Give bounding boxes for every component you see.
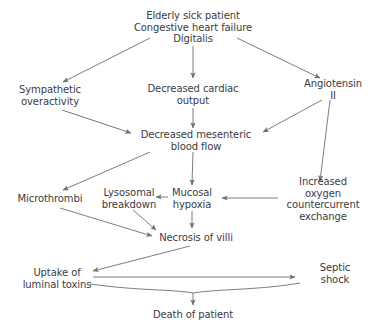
node-necrosis-of-villi: Necrosis of villi <box>159 232 233 244</box>
edge-sympathetic-mesenteric <box>62 110 131 133</box>
node-decreased-mesenteric-blood-flow: Decreased mesenteric blood flow <box>141 129 251 152</box>
edge-mesenteric-microthrombi <box>63 152 150 190</box>
node-uptake-of-luminal-toxins: Uptake of luminal toxins <box>23 267 92 290</box>
edge-necrosis-uptake <box>93 246 190 271</box>
edge-bracket-curve <box>90 283 300 293</box>
node-microthrombi: Microthrombi <box>18 193 83 205</box>
edge-angiotensin-oxygen <box>320 100 330 181</box>
edge-lysosomal-necrosis <box>133 210 156 230</box>
node-trigger: Elderly sick patient Congestive heart fa… <box>134 10 252 45</box>
edge-trigger-sympathetic <box>63 38 150 82</box>
node-lysosomal-breakdown: Lysosomal breakdown <box>102 187 156 210</box>
flowchart-diagram: Elderly sick patient Congestive heart fa… <box>0 0 386 334</box>
edge-microthrombi-necrosis <box>60 208 152 236</box>
node-death-of-patient: Death of patient <box>153 309 233 321</box>
edge-mesenteric-mucosal <box>192 152 193 185</box>
node-sympathetic-overactivity: Sympathetic overactivity <box>19 84 81 107</box>
node-angiotensin-ii: Angiotensin II <box>304 78 362 101</box>
node-mucosal-hypoxia: Mucosal hypoxia <box>172 187 212 210</box>
node-increased-oxygen-countercurrent-exchange: Increased oxygen countercurrent exchange <box>287 176 360 222</box>
edge-angiotensin-mesenteric <box>263 100 322 132</box>
node-decreased-cardiac-output: Decreased cardiac output <box>147 83 238 106</box>
node-septic-shock: Septic shock <box>310 262 361 285</box>
